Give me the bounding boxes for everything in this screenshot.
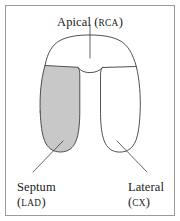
paren-close: ) xyxy=(146,195,150,209)
paren-close: ) xyxy=(41,195,45,209)
label-apical-artery-wrap: (RCA) xyxy=(91,15,123,29)
label-lateral-artery-wrap: (CX) xyxy=(128,195,164,209)
label-septum-artery: LAD xyxy=(21,198,41,208)
label-septum-name: Septum xyxy=(17,180,56,194)
segment-fill-lateral xyxy=(101,67,141,153)
label-apical: Apical (RCA) xyxy=(0,12,180,30)
label-lateral: Lateral (CX) xyxy=(128,177,164,209)
label-lateral-name: Lateral xyxy=(128,180,164,194)
segment-fill-septum xyxy=(40,66,80,153)
label-septum-artery-wrap: (LAD) xyxy=(17,195,56,209)
myocardial-segment-figure: Apical (RCA) Septum (LAD) Lateral (CX) xyxy=(0,0,180,221)
paren-close: ) xyxy=(119,15,123,29)
label-apical-artery: RCA xyxy=(98,18,118,28)
label-septum: Septum (LAD) xyxy=(17,177,56,209)
label-apical-name: Apical xyxy=(57,15,91,29)
label-lateral-artery: CX xyxy=(132,198,146,208)
